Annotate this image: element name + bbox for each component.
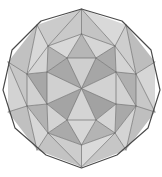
figure-canvas: Geodesic polyhedron wireframe <box>0 0 162 177</box>
polyhedron-figure: Geodesic polyhedron wireframe <box>0 0 162 177</box>
